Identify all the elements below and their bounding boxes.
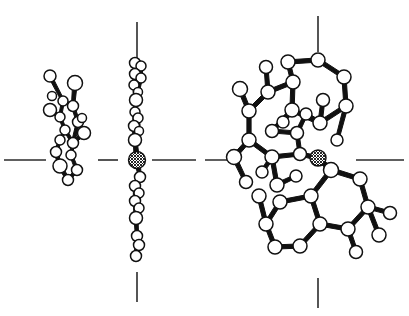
left-atom (58, 96, 68, 106)
right-atom (285, 103, 299, 117)
left-atom (48, 92, 57, 101)
left-atom (72, 165, 83, 176)
left-atom (68, 76, 83, 91)
right-atom (261, 85, 275, 99)
right-atom (277, 116, 289, 128)
center-atom (130, 94, 143, 107)
right-atom (311, 53, 325, 67)
right-atom (266, 125, 279, 138)
right-atom (293, 239, 307, 253)
right-atom (331, 134, 343, 146)
right-atom (313, 217, 327, 231)
right-atom (300, 108, 312, 120)
right-atom (361, 200, 375, 214)
right-atom (256, 166, 268, 178)
right-atom (290, 170, 302, 182)
right-atom (227, 150, 242, 165)
center-atom (130, 212, 143, 225)
right-atom (337, 70, 351, 84)
right-atom (270, 178, 284, 192)
center-metal-atom (129, 152, 146, 169)
right-metal-atom (310, 150, 326, 166)
left-atom (53, 159, 67, 173)
ortep-structure-figure (0, 0, 409, 316)
left-atom (60, 125, 70, 135)
left-atom (78, 127, 91, 140)
right-atom (286, 75, 300, 89)
right-atom (240, 176, 253, 189)
left-view-atoms (44, 70, 91, 186)
right-atom (268, 240, 282, 254)
right-atom (384, 207, 397, 220)
left-atom (55, 135, 65, 145)
right-atom (350, 246, 363, 259)
left-atom (55, 112, 65, 122)
right-atom (273, 195, 287, 209)
right-atom (324, 163, 339, 178)
right-atom (265, 150, 279, 164)
right-atom (353, 172, 367, 186)
right-atom (313, 116, 327, 130)
right-atom (242, 133, 256, 147)
right-atom (294, 148, 307, 161)
right-atom (281, 55, 295, 69)
right-atom (259, 217, 273, 231)
left-atom (78, 114, 87, 123)
right-view-atoms (227, 53, 397, 259)
center-atom (131, 251, 142, 262)
right-atom (372, 228, 386, 242)
right-atom (317, 94, 330, 107)
left-atom (68, 101, 79, 112)
left-atom (44, 70, 56, 82)
left-atom (51, 147, 62, 158)
right-atom (242, 104, 256, 118)
right-atom (260, 61, 273, 74)
right-atom (304, 189, 318, 203)
right-atom (291, 127, 304, 140)
left-atom (63, 175, 74, 186)
center-view-atoms (129, 58, 147, 262)
right-atom (341, 222, 355, 236)
molecular-structure-canvas (0, 0, 409, 316)
right-atom (252, 189, 266, 203)
left-atom (68, 138, 79, 149)
right-atom (339, 99, 353, 113)
left-atom (44, 104, 57, 117)
right-atom (233, 82, 248, 97)
center-atom (134, 240, 145, 251)
left-atom (66, 150, 76, 160)
center-atom (129, 134, 142, 147)
